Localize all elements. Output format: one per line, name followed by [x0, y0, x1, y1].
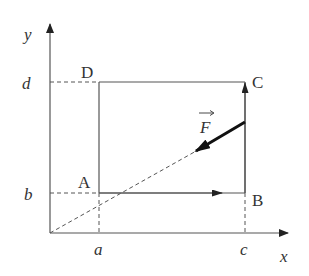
point-D-label: D — [81, 63, 93, 82]
y-axis-label: y — [22, 25, 32, 44]
tick-b: b — [24, 185, 33, 204]
point-C-label: C — [252, 73, 263, 92]
force-line-of-action — [50, 150, 198, 233]
point-A-label: A — [78, 173, 91, 192]
point-B-label: B — [252, 191, 263, 210]
tick-c: c — [240, 240, 248, 259]
diagram-canvas: y x d b a c D C A B F — [0, 0, 309, 276]
force-label: F — [199, 118, 211, 137]
x-axis-label: x — [279, 247, 288, 266]
tick-d: d — [22, 74, 31, 93]
tick-a: a — [94, 240, 103, 259]
